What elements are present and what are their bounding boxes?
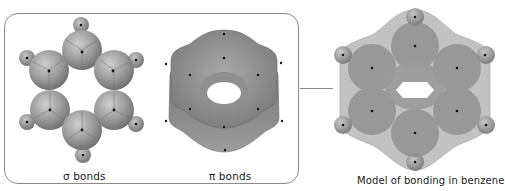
combined-bonding-model: [334, 8, 495, 171]
benzene-model-caption: Model of bonding in benzene: [357, 175, 505, 186]
sigma-bonds-label: σ bonds: [63, 170, 106, 182]
pi-bonds-label: π bonds: [209, 170, 251, 182]
ring-hole: [396, 82, 434, 98]
carbon-atoms: [29, 30, 134, 150]
ring-hole: [207, 82, 241, 104]
sigma-bonds-model: [19, 17, 144, 163]
pi-bonds-model: [165, 30, 283, 152]
